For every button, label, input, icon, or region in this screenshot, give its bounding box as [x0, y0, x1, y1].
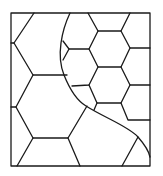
frame: [11, 13, 150, 166]
large-hex-region: [11, 13, 87, 166]
hex-tessellation-diagram: [0, 0, 163, 176]
small-hex-region: [63, 13, 150, 166]
